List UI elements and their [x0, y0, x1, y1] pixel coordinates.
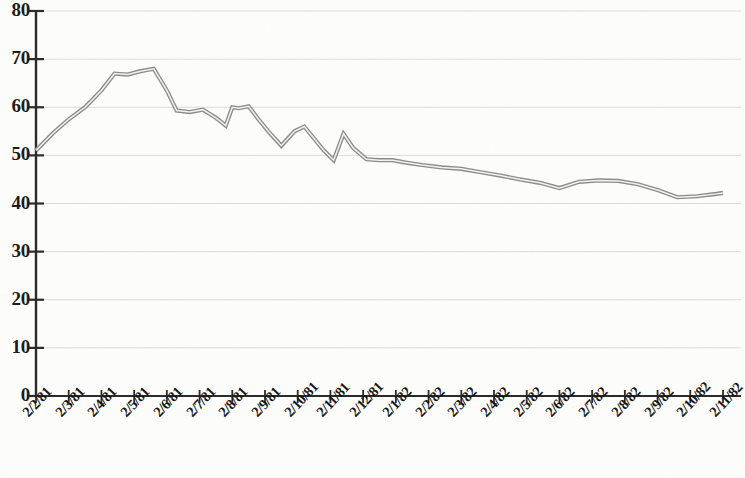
- y-axis-tick-label: 40: [0, 192, 30, 214]
- y-axis-tick-label: 80: [0, 0, 30, 21]
- y-axis-tick-label: 10: [0, 336, 30, 358]
- y-axis-tick-label: 60: [0, 95, 30, 117]
- y-axis-tick-label: 50: [0, 143, 30, 165]
- data-series-line: [36, 69, 723, 197]
- y-axis-tick-label: 30: [0, 240, 30, 262]
- data-series-line-outline: [36, 69, 723, 197]
- line-chart: 01020304050607080 2/2/812/3/812/4/812/5/…: [0, 0, 745, 478]
- gridlines: [36, 11, 741, 348]
- y-axis-tick-label: 20: [0, 288, 30, 310]
- y-axis-tick-label: 70: [0, 47, 30, 69]
